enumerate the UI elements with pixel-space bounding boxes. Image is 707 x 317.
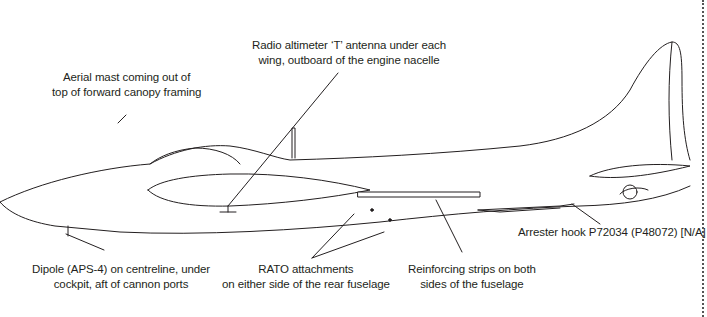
label-line: wing, outboard of the engine nacelle	[252, 53, 446, 68]
label-line: cockpit, aft of cannon ports	[32, 277, 210, 292]
radio-altimeter-antenna	[220, 206, 236, 212]
label-reinforcing-strips: Reinforcing strips on both sides of the …	[408, 262, 536, 292]
aircraft-diagram: Aerial mast coming out of top of forward…	[0, 0, 707, 317]
tailplane	[590, 164, 690, 177]
label-arrester-hook: Arrester hook P72034 (P48072) [N/A]	[518, 225, 706, 240]
label-dipole: Dipole (APS-4) on centreline, under cock…	[32, 262, 210, 292]
label-line: Dipole (APS-4) on centreline, under	[32, 262, 210, 277]
label-line: on either side of the rear fuselage	[222, 277, 390, 292]
leader-arrester-hook	[572, 204, 600, 224]
dotted-page-border	[702, 0, 704, 317]
leader-radio-altimeter	[228, 73, 338, 206]
label-rato: RATO attachments on either side of the r…	[222, 262, 390, 292]
label-line: sides of the fuselage	[408, 277, 536, 292]
canopy	[150, 148, 240, 164]
label-aerial-mast: Aerial mast coming out of top of forward…	[52, 70, 201, 100]
leader-dipole	[66, 234, 104, 250]
aerial-mast-marker	[118, 115, 126, 123]
label-line: RATO attachments	[222, 262, 390, 277]
leader-rato-2	[312, 232, 384, 258]
aerial-mast-spine	[292, 128, 295, 158]
label-radio-altimeter: Radio altimeter ‘T’ antenna under each w…	[252, 38, 446, 68]
rato-attachment-1	[371, 209, 374, 212]
reinforcing-strip	[358, 192, 480, 197]
rato-attachment-2	[389, 219, 392, 222]
wing	[148, 174, 370, 206]
label-line: Arrester hook P72034 (P48072) [N/A]	[518, 225, 706, 240]
label-line: Radio altimeter ‘T’ antenna under each	[252, 38, 446, 53]
leader-rato-1	[312, 214, 354, 258]
label-line: Reinforcing strips on both	[408, 262, 536, 277]
tail-wheel	[623, 185, 637, 199]
label-line: top of forward canopy framing	[52, 85, 201, 100]
leader-reinforcing	[436, 200, 462, 252]
label-line: Aerial mast coming out of	[52, 70, 201, 85]
